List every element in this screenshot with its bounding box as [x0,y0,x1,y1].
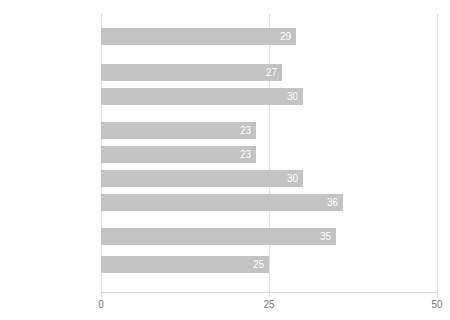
bar: 30 [101,170,303,187]
bar: 25 [101,256,269,273]
bar-value-label: 23 [240,126,251,136]
x-tick-25 [269,292,270,297]
bar: 29 [101,28,296,45]
bar: 30 [101,88,303,105]
bar-value-label: 23 [240,150,251,160]
bar-value-label: 25 [253,260,264,270]
bar-value-label: 35 [320,232,331,242]
x-tick-label-0: 0 [98,299,104,310]
x-tick-0 [101,292,102,297]
bar-value-label: 30 [287,174,298,184]
bar: 23 [101,122,256,139]
x-tick-label-50: 50 [431,299,442,310]
bar-chart: 0 25 50 Gesamt29Mädchen27Jungen3012-13 J… [0,0,450,320]
bar-value-label: 30 [287,92,298,102]
bar: 35 [101,228,336,245]
plot-area: 0 25 50 Gesamt29Mädchen27Jungen3012-13 J… [0,0,450,320]
gridline-x-25 [269,14,270,292]
bar-value-label: 36 [327,198,338,208]
bar-value-label: 29 [280,32,291,42]
bar: 36 [101,194,343,211]
bar-value-label: 27 [266,68,277,78]
x-tick-label-25: 25 [263,299,274,310]
gridline-x-50 [437,14,438,292]
x-tick-50 [437,292,438,297]
bar: 23 [101,146,256,163]
bar: 27 [101,64,282,81]
